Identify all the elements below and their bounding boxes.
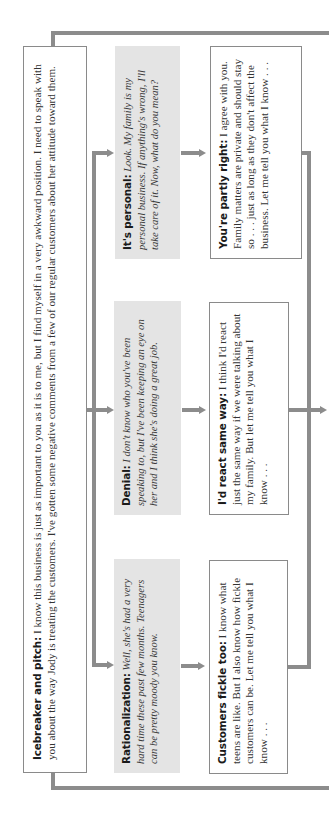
objection-personal: It's personal: Look. My family is my per… — [115, 46, 180, 259]
objection-rationalization: Rationalization: Well, she's had a very … — [114, 559, 180, 773]
objection-label: Rationalization: — [120, 673, 132, 764]
arrow-to-customers-icon — [198, 662, 205, 670]
arrow-to-rationalization-icon — [107, 661, 114, 669]
response-react-same-way: I'd react same way: I think I'd react ju… — [209, 302, 289, 515]
objection-label: It's personal: — [121, 175, 133, 250]
connector-bottom-return — [53, 786, 329, 790]
flow-diagram: Icebreaker and pitch: I know this busine… — [0, 0, 335, 833]
arrow-to-next-step-icon — [320, 406, 327, 414]
icebreaker-label: Icebreaker and pitch: — [31, 637, 43, 760]
response-partly-right: You're partly right: I agree with you. F… — [210, 46, 302, 259]
connector-from-react — [289, 408, 311, 412]
connector-to-rationalization — [92, 663, 108, 667]
response-label: Customers fickle too: — [216, 641, 228, 764]
connector-personal-to-partly — [181, 151, 200, 155]
arrow-to-personal-icon — [107, 149, 114, 157]
connector-from-partly — [302, 151, 310, 155]
response-label: I'd react same way: — [216, 393, 228, 505]
objection-denial: Denial: I don't know who you've been spe… — [114, 301, 181, 515]
connector-top-return — [53, 31, 329, 35]
connector-from-customers — [288, 665, 310, 669]
connector-rationalization-to-customers — [181, 664, 199, 668]
arrow-to-denial-icon — [107, 406, 114, 414]
connector-denial-to-react — [182, 408, 200, 412]
icebreaker-box: Icebreaker and pitch: I know this busine… — [23, 46, 87, 773]
connector-to-personal — [92, 151, 108, 155]
response-label: You're partly right: — [217, 140, 229, 249]
connector-icebreaker-stub — [51, 772, 55, 790]
objection-label: Denial: — [120, 465, 132, 506]
connector-to-denial — [92, 408, 108, 412]
arrow-to-partly-icon — [199, 149, 206, 157]
arrow-to-react-icon — [199, 406, 206, 414]
response-customers-fickle: Customers fickle too: I know what teens … — [209, 560, 288, 774]
